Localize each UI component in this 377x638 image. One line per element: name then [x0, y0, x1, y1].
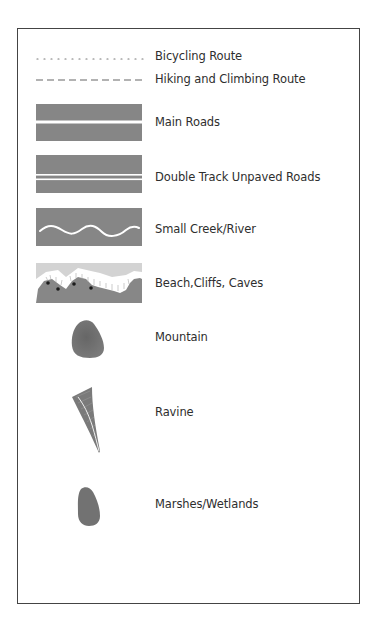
- legend-label-mountain: Mountain: [155, 330, 208, 344]
- mountain-icon: [70, 318, 106, 360]
- dotted-line-icon: [36, 57, 144, 61]
- legend-label-hiking-climbing-route: Hiking and Climbing Route: [155, 72, 305, 86]
- main-road-icon: [36, 104, 142, 141]
- double-track-road-icon: [36, 155, 142, 193]
- legend-label-small-creek-river: Small Creek/River: [155, 222, 256, 236]
- beach-cliffs-caves-icon: [36, 263, 142, 303]
- legend-label-main-roads: Main Roads: [155, 115, 220, 129]
- ravine-icon: [70, 385, 106, 455]
- legend-label-bicycling-route: Bicycling Route: [155, 49, 242, 63]
- creek-river-icon: [36, 208, 142, 246]
- marsh-wetlands-icon: [75, 486, 103, 528]
- dashed-line-icon: [36, 78, 144, 82]
- legend-label-marshes-wetlands: Marshes/Wetlands: [155, 497, 258, 511]
- legend-label-ravine: Ravine: [155, 405, 194, 419]
- legend-label-beach-cliffs-caves: Beach,Cliffs, Caves: [155, 276, 263, 290]
- legend-label-double-track-unpaved-roads: Double Track Unpaved Roads: [155, 170, 320, 184]
